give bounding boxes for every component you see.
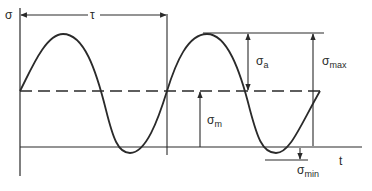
stress-waveform bbox=[20, 34, 320, 153]
amplitude-label: σa bbox=[256, 54, 268, 70]
stress-cycle-diagram: σ t τ σa σmax σm σmin bbox=[0, 0, 372, 191]
mean-label: σm bbox=[207, 113, 222, 129]
min-label: σmin bbox=[297, 163, 319, 179]
x-axis-label: t bbox=[339, 154, 343, 168]
period-label: τ bbox=[90, 8, 95, 22]
y-axis-label: σ bbox=[5, 8, 13, 22]
max-label: σmax bbox=[322, 54, 347, 70]
